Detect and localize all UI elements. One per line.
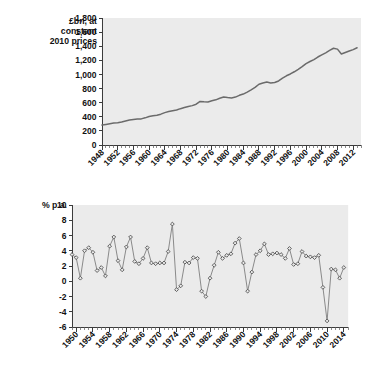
- y-axis-title: constant: [61, 26, 97, 36]
- gdp-level-chart: 02004006008001,0001,2001,4001,6001,80019…: [0, 0, 369, 185]
- x-tick-label: 1982: [194, 329, 215, 350]
- x-tick-label: 1960: [133, 147, 154, 168]
- y-tick-label: -6: [59, 322, 67, 332]
- gdp-level-figure: 02004006008001,0001,2001,4001,6001,80019…: [0, 0, 369, 185]
- y-tick-label: 8: [62, 215, 67, 225]
- x-tick-label: 1956: [117, 147, 138, 168]
- y-axis-title: £bn, at: [69, 16, 97, 26]
- x-tick-label: 1990: [227, 329, 248, 350]
- x-tick-label: 1998: [260, 329, 281, 350]
- x-tick-label: 1968: [164, 147, 185, 168]
- x-tick-label: 1952: [101, 147, 122, 168]
- x-tick-label: 1966: [127, 329, 148, 350]
- x-tick-label: 2012: [337, 147, 358, 168]
- x-tick-label: 2004: [305, 147, 326, 168]
- gdp-growth-figure: -6-4-20246810195019541958196219661970197…: [0, 185, 369, 370]
- x-tick-label: 2002: [277, 329, 298, 350]
- x-tick-label: 1988: [243, 147, 264, 168]
- x-tick-label: 1964: [148, 147, 169, 168]
- y-tick-label: 4: [62, 246, 67, 256]
- x-tick-label: 1972: [180, 147, 201, 168]
- y-tick-label: -4: [59, 307, 67, 317]
- y-tick-label: 2: [62, 261, 67, 271]
- x-tick-label: 1986: [210, 329, 231, 350]
- x-tick-label: 1996: [274, 147, 295, 168]
- y-tick-label: 800: [82, 84, 96, 94]
- x-tick-label: 1978: [177, 329, 198, 350]
- y-tick-label: 400: [82, 112, 96, 122]
- y-tick-label: 0: [62, 276, 67, 286]
- y-tick-label: 200: [82, 126, 96, 136]
- x-tick-label: 1954: [76, 329, 97, 350]
- y-axis-title: 2010 prices: [50, 36, 98, 46]
- x-tick-label: 1994: [244, 329, 265, 350]
- y-tick-label: 1,000: [75, 70, 97, 80]
- x-tick-label: 2010: [311, 329, 332, 350]
- x-tick-label: 2014: [327, 329, 348, 350]
- y-tick-label: 0: [92, 140, 97, 150]
- x-tick-label: 1974: [160, 329, 181, 350]
- x-tick-label: 1958: [93, 329, 114, 350]
- y-axis-title: % p.a.: [42, 200, 67, 210]
- x-tick-label: 1962: [110, 329, 131, 350]
- y-tick-label: 6: [62, 231, 67, 241]
- x-tick-label: 1950: [60, 329, 81, 350]
- x-tick-label: 2008: [321, 147, 342, 168]
- x-tick-label: 1984: [227, 147, 248, 168]
- y-tick-label: 1,200: [75, 55, 97, 65]
- x-tick-label: 1980: [211, 147, 232, 168]
- x-tick-label: 2006: [294, 329, 315, 350]
- y-tick-label: 600: [82, 98, 96, 108]
- gdp-growth-chart: -6-4-20246810195019541958196219661970197…: [0, 185, 369, 370]
- y-tick-label: -2: [59, 292, 67, 302]
- x-tick-label: 2000: [290, 147, 311, 168]
- x-tick-label: 1992: [258, 147, 279, 168]
- x-tick-label: 1976: [195, 147, 216, 168]
- x-tick-label: 1970: [143, 329, 164, 350]
- x-tick-label: 1948: [86, 147, 107, 168]
